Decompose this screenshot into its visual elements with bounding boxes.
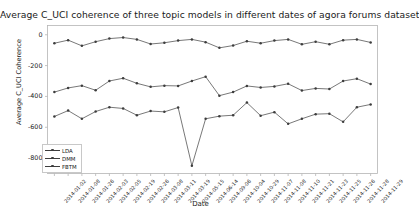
data-point: [122, 107, 125, 110]
data-point: [356, 77, 359, 80]
data-point: [177, 106, 180, 109]
data-point: [108, 37, 111, 40]
data-point: [204, 75, 207, 78]
data-point: [342, 39, 345, 42]
data-point: [314, 113, 317, 116]
data-point: [218, 47, 221, 50]
data-point: [259, 114, 262, 117]
data-point: [273, 85, 276, 88]
data-point: [301, 89, 304, 92]
data-point: [356, 106, 359, 109]
data-point: [246, 85, 249, 88]
data-point: [81, 45, 84, 48]
data-point: [108, 106, 111, 109]
legend-item-dmm[interactable]: DMM: [45, 155, 77, 162]
legend-item-fbtm[interactable]: FBTM: [45, 163, 77, 170]
data-point: [273, 39, 276, 42]
data-point: [177, 39, 180, 42]
data-point: [163, 42, 166, 45]
data-point: [122, 77, 125, 80]
data-point: [342, 80, 345, 83]
data-point: [149, 110, 152, 113]
data-point: [108, 80, 111, 83]
legend-item-label: FBTM: [62, 164, 77, 170]
data-point: [149, 86, 152, 89]
data-point: [273, 111, 276, 114]
data-point: [94, 40, 97, 43]
data-point: [94, 89, 97, 92]
data-point: [232, 114, 235, 117]
data-point: [191, 38, 194, 41]
legend-marker-icon: [45, 155, 60, 162]
data-point: [218, 94, 221, 97]
data-point: [191, 80, 194, 83]
legend-marker-icon: [45, 147, 60, 154]
data-point: [122, 36, 125, 39]
data-point: [81, 118, 84, 121]
data-point: [81, 84, 84, 87]
data-point: [67, 109, 70, 112]
data-point: [328, 88, 331, 91]
data-point: [232, 44, 235, 47]
data-point: [53, 42, 56, 45]
data-point: [328, 43, 331, 46]
legend-marker-icon: [45, 163, 60, 170]
data-point: [301, 118, 304, 121]
data-point: [136, 114, 139, 117]
data-point: [177, 85, 180, 88]
y-tick-label: 0: [17, 31, 43, 39]
data-point: [314, 87, 317, 90]
y-tick-label: -200: [17, 62, 43, 70]
data-point: [136, 82, 139, 85]
data-point: [246, 40, 249, 43]
chart-legend[interactable]: LDADMMFBTM: [42, 144, 82, 173]
data-point: [232, 91, 235, 94]
data-point: [328, 112, 331, 115]
data-point: [369, 103, 372, 106]
data-point: [369, 83, 372, 86]
data-point: [53, 115, 56, 118]
data-point: [314, 40, 317, 43]
legend-item-lda[interactable]: LDA: [45, 147, 77, 154]
data-point: [301, 43, 304, 46]
data-point: [163, 84, 166, 87]
data-point: [94, 110, 97, 113]
data-point: [356, 38, 359, 41]
data-point: [287, 123, 290, 126]
data-point: [136, 38, 139, 41]
data-point: [149, 43, 152, 46]
data-point: [369, 41, 372, 44]
data-point: [259, 86, 262, 89]
data-point: [287, 83, 290, 86]
legend-item-label: DMM: [62, 156, 75, 162]
data-point: [191, 165, 194, 168]
y-tick-label: -800: [17, 154, 43, 162]
data-point: [218, 115, 221, 118]
legend-item-label: LDA: [62, 148, 73, 154]
data-point: [259, 42, 262, 45]
plot-frame: [48, 26, 378, 174]
data-point: [287, 38, 290, 41]
data-point: [163, 111, 166, 114]
data-point: [246, 101, 249, 104]
data-point: [342, 121, 345, 124]
data-point: [204, 118, 207, 121]
y-tick-label: -600: [17, 123, 43, 131]
data-point: [67, 39, 70, 42]
y-tick-label: -400: [17, 92, 43, 100]
data-point: [67, 87, 70, 90]
data-point: [53, 91, 56, 94]
data-point: [204, 41, 207, 44]
